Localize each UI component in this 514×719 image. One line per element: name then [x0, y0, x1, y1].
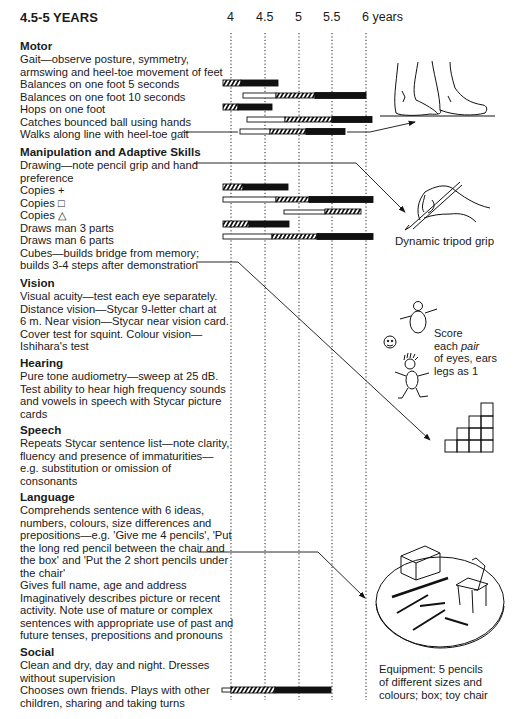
- caption-score-word: each: [434, 340, 458, 352]
- caption-equipment-line: of different sizes and: [379, 676, 488, 689]
- leader-walks-line-to-feet: [347, 122, 415, 132]
- caption-equipment-line: Equipment: 5 pencils: [379, 663, 488, 676]
- cube-steps-illustration: [445, 403, 493, 452]
- leader-language-to-equipment: [198, 552, 365, 598]
- bar-catches-ball: [247, 117, 372, 123]
- equipment-illustration: [376, 546, 504, 648]
- bar-hops: [223, 104, 272, 110]
- caption-equipment: Equipment: 5 pencils of different sizes …: [379, 663, 488, 702]
- age-bars: [222, 80, 373, 693]
- bar-social: [222, 687, 331, 693]
- caption-score-line: each pair: [434, 340, 497, 353]
- bar-walks-line: [240, 129, 345, 135]
- caption-score-line: legs as 1: [434, 365, 497, 378]
- caption-equipment-line: colours; box; toy chair: [379, 689, 488, 702]
- bar-balances-10s: [243, 93, 366, 99]
- bar-draws-man-6: [223, 234, 373, 240]
- caption-tripod-grip: Dynamic tripod grip: [395, 235, 494, 248]
- caption-score-emphasis: pair: [461, 340, 479, 352]
- feet-illustration: [380, 61, 495, 116]
- hand-pencil-illustration: [405, 182, 490, 230]
- bar-copies-triangle: [284, 209, 361, 214]
- caption-score-line: of eyes, ears: [434, 352, 497, 365]
- bar-draws-man-3: [223, 221, 289, 227]
- caption-score: Score each pair of eyes, ears legs as 1: [434, 327, 497, 377]
- bar-copies-square: [223, 197, 373, 203]
- caption-score-line: Score: [434, 327, 497, 340]
- bar-balances-5s: [223, 80, 278, 86]
- leader-lines: [182, 122, 430, 598]
- draw-a-man-illustrations: [384, 302, 437, 399]
- bar-copies-plus: [223, 184, 288, 190]
